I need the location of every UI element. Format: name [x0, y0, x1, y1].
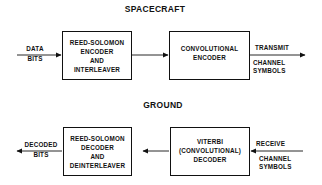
transmit-label: TRANSMIT	[255, 44, 289, 52]
spacecraft-title: SPACECRAFT	[117, 4, 193, 14]
data-label: DATA	[16, 45, 54, 53]
convolutional-encoder-box: CONVOLUTIONAL ENCODER	[169, 31, 250, 80]
box-text: VITERBI	[197, 137, 223, 146]
box-text: AND	[90, 56, 104, 65]
channel-label: CHANNEL	[259, 155, 292, 163]
data-bits-label: DATA BITS	[16, 45, 54, 63]
box-text: (CONVOLUTIONAL)	[179, 146, 241, 155]
reed-solomon-decoder-box: REED-SOLOMON DECODER AND DEINTERLEAVER	[63, 127, 132, 176]
bits-label: BITS	[16, 55, 54, 63]
box-text: REED-SOLOMON	[70, 38, 125, 47]
box-text: ENCODER	[81, 47, 114, 56]
reed-solomon-encoder-box: REED-SOLOMON ENCODER AND INTERLEAVER	[62, 31, 132, 80]
ground-title: GROUND	[135, 100, 191, 110]
box-text: AND	[90, 152, 104, 161]
box-text: ENCODER	[193, 53, 226, 62]
box-text: CONVOLUTIONAL	[181, 44, 239, 53]
box-text: DECODER	[194, 155, 227, 164]
decoded-label: DECODED	[20, 141, 62, 149]
viterbi-decoder-box: VITERBI (CONVOLUTIONAL) DECODER	[170, 127, 250, 176]
box-text: INTERLEAVER	[74, 65, 120, 74]
box-text: REED-SOLOMON	[70, 134, 125, 143]
symbols-label: SYMBOLS	[253, 67, 286, 75]
box-text: DEINTERLEAVER	[70, 161, 125, 170]
box-text: DECODER	[81, 143, 114, 152]
receive-label: RECEIVE	[256, 140, 285, 148]
decoded-bits-label: DECODED BITS	[20, 141, 62, 159]
channel-symbols-label: CHANNEL SYMBOLS	[253, 59, 286, 75]
channel-symbols-label: CHANNEL SYMBOLS	[259, 155, 292, 171]
channel-label: CHANNEL	[253, 59, 286, 67]
symbols-label: SYMBOLS	[259, 163, 292, 171]
bits-label: BITS	[20, 151, 62, 159]
